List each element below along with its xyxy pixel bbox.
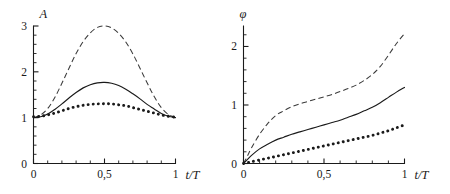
phase-x-axis-label: t/T	[415, 168, 430, 182]
amplitude-axis-ticks	[34, 26, 176, 164]
chart-panel-amplitude: 012300,51 A t/T	[0, 0, 225, 194]
tick-label: 0,5	[97, 168, 112, 181]
tick-label: 0	[31, 168, 37, 180]
amplitude-axes-lines	[34, 26, 176, 164]
amplitude-curve-dotted	[34, 104, 176, 118]
phase-curve-solid	[244, 87, 405, 163]
amplitude-y-axis-label: A	[39, 7, 48, 21]
amplitude-plot-svg: 012300,51 A t/T	[0, 0, 225, 194]
phase-axes-lines	[244, 26, 405, 164]
tick-label: 2	[231, 40, 237, 52]
tick-label: 1	[173, 168, 179, 180]
tick-label: 1	[231, 99, 237, 111]
tick-label: 2	[21, 66, 27, 78]
amplitude-tick-labels: 012300,51	[21, 20, 178, 181]
tick-label: 3	[21, 20, 27, 32]
tick-label: 0	[231, 158, 237, 170]
chart-panel-phase: 01200,51 φ t/T	[225, 0, 450, 194]
tick-label: 1	[21, 112, 27, 124]
figure-two-panel-plot: 012300,51 A t/T 01200,51 φ t/T	[0, 0, 450, 194]
amplitude-x-axis-label: t/T	[186, 168, 201, 182]
phase-y-axis-label: φ	[240, 7, 247, 21]
tick-label: 0	[241, 168, 247, 180]
phase-plot-svg: 01200,51 φ t/T	[225, 0, 450, 194]
tick-label: 0,5	[317, 168, 332, 181]
tick-label: 0	[21, 158, 27, 170]
tick-label: 1	[402, 168, 408, 180]
